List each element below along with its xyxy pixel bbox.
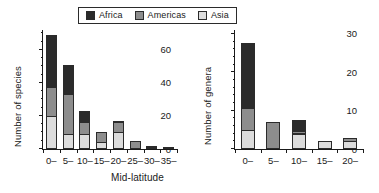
x-tick-0-1: [77, 149, 78, 153]
figure-root: Africa Americas Asia Number of species 0…: [0, 0, 379, 193]
x-tick-1-3: [337, 149, 338, 153]
y-tick-minor-1-12: [233, 102, 236, 103]
bar: [130, 141, 141, 149]
x-tick-1-4: [363, 149, 364, 153]
y-tick-label-1-10: 10: [346, 106, 357, 116]
y-tick-1-30: [231, 33, 235, 34]
bar-segment-asia: [46, 116, 57, 149]
x-tick-label-1-4: 20–: [342, 156, 358, 166]
bar: [241, 42, 255, 149]
bar-segment-asia: [96, 142, 107, 149]
bar-segment-americas: [79, 122, 90, 135]
y-tick-label-0-40: 40: [160, 78, 171, 88]
legend-entry-africa: Africa: [86, 11, 123, 20]
x-tick-0-4: [127, 149, 128, 153]
bar-segment-asia: [292, 134, 306, 149]
bar-segment-asia: [146, 147, 157, 149]
bar-segment-americas: [63, 94, 74, 135]
bar-segment-americas: [130, 141, 141, 149]
x-tick-1-2: [312, 149, 313, 153]
bar: [318, 141, 332, 149]
y-tick-minor-1-4: [233, 133, 236, 134]
y-axis-label-genera: Number of genera: [202, 67, 213, 145]
x-tick-0-0: [60, 149, 61, 153]
y-tick-minor-1-26: [233, 48, 236, 49]
x-tick-label-1-1: 5–: [268, 156, 279, 166]
y-tick-minor-0-55: [41, 57, 44, 58]
bar: [63, 63, 74, 149]
bar: [163, 147, 174, 149]
x-tick-1-0: [261, 149, 262, 153]
y-tick-minor-0-70: [41, 32, 44, 33]
y-tick-minor-1-18: [233, 79, 236, 80]
legend: Africa Americas Asia: [78, 7, 237, 24]
x-tick-label-0-2: 10–: [77, 156, 93, 166]
legend-entry-asia: Asia: [198, 11, 229, 20]
legend-label-asia: Asia: [211, 11, 229, 20]
legend-label-americas: Americas: [148, 11, 186, 20]
x-tick-label-0-5: 25–: [127, 156, 143, 166]
x-tick-0-6: [160, 149, 161, 153]
x-tick-label-0-6: 30–: [144, 156, 160, 166]
y-tick-minor-0-65: [41, 41, 44, 42]
legend-entry-americas: Americas: [135, 11, 186, 20]
legend-swatch-americas: [135, 11, 144, 20]
plot-area-genera: 01020300–5–10–15–20–: [234, 30, 363, 150]
y-axis-label-species: Number of species: [12, 66, 23, 147]
x-tick-1-origin: [235, 149, 236, 153]
y-tick-label-0-60: 60: [160, 45, 171, 55]
y-tick-minor-0-25: [41, 107, 44, 108]
y-tick-minor-0-10: [41, 131, 44, 132]
bar-segment-asia: [63, 134, 74, 149]
bar-segment-africa: [241, 43, 255, 108]
y-tick-minor-1-8: [233, 117, 236, 118]
bar-segment-asia: [163, 147, 174, 149]
bar-segment-africa: [63, 65, 74, 95]
bar-segment-asia: [79, 134, 90, 149]
y-tick-label-1-30: 30: [346, 29, 357, 39]
bar-segment-asia: [113, 132, 124, 149]
bar: [96, 131, 107, 149]
bar: [79, 109, 90, 149]
x-tick-label-0-0: 0–: [46, 156, 57, 166]
x-tick-0-3: [110, 149, 111, 153]
y-tick-label-0-20: 20: [160, 111, 171, 121]
y-tick-minor-0-30: [41, 98, 44, 99]
bar-segment-americas: [266, 122, 280, 149]
y-tick-minor-1-22: [233, 64, 236, 65]
plot-area-species: 02040600–5–10–15–20–25–30–35–: [42, 30, 177, 150]
x-tick-label-0-7: 35–: [161, 156, 177, 166]
bar: [46, 33, 57, 149]
y-tick-1-20: [231, 71, 235, 72]
bar: [113, 119, 124, 149]
x-tick-label-0-4: 20–: [110, 156, 126, 166]
y-tick-0-20: [39, 115, 43, 116]
x-tick-label-0-1: 5–: [63, 156, 74, 166]
x-tick-label-1-2: 10–: [291, 156, 307, 166]
y-tick-minor-1-14: [233, 94, 236, 95]
y-tick-label-0-0: 0: [166, 144, 171, 154]
x-tick-0-5: [144, 149, 145, 153]
x-tick-label-1-3: 15–: [317, 156, 333, 166]
x-axis-title-text: Mid-latitude: [111, 172, 164, 183]
y-tick-minor-0-35: [41, 90, 44, 91]
bar-segment-africa: [46, 35, 57, 88]
y-tick-1-10: [231, 110, 235, 111]
bar-segment-asia: [343, 141, 357, 149]
y-tick-minor-0-45: [41, 74, 44, 75]
y-tick-minor-0-15: [41, 123, 44, 124]
x-tick-0-2: [93, 149, 94, 153]
y-tick-minor-1-16: [233, 87, 236, 88]
x-tick-0-origin: [43, 149, 44, 153]
bar: [343, 137, 357, 149]
y-tick-minor-1-6: [233, 125, 236, 126]
legend-label-africa: Africa: [99, 11, 123, 20]
legend-swatch-africa: [86, 11, 95, 20]
bar: [146, 146, 157, 149]
bar-segment-americas: [46, 87, 57, 117]
x-tick-label-0-3: 15–: [94, 156, 110, 166]
bar: [266, 122, 280, 149]
y-tick-minor-0-5: [41, 140, 44, 141]
y-tick-label-1-20: 20: [346, 67, 357, 77]
bar-segment-americas: [241, 108, 255, 131]
